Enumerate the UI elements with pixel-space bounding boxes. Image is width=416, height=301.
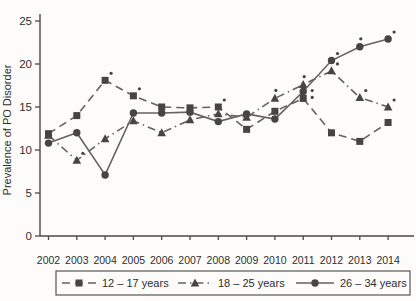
- x-tick-label: 2014: [376, 254, 400, 266]
- significance-asterisk: [223, 98, 226, 101]
- x-tick-label: 2003: [65, 254, 89, 266]
- significance-asterisk: [359, 37, 362, 40]
- data-point-marker: [243, 126, 250, 133]
- data-point-marker: [73, 129, 80, 136]
- data-point-marker: [356, 43, 363, 50]
- data-point-marker: [328, 57, 335, 64]
- y-tick-label: 15: [19, 101, 32, 113]
- data-point-marker: [328, 129, 335, 136]
- x-tick-label: 2012: [320, 254, 344, 266]
- figure-container: 0510152025200220032004200520062007200820…: [0, 0, 416, 301]
- data-point-marker: [271, 108, 278, 115]
- significance-asterisk: [364, 89, 367, 92]
- significance-asterisk: [110, 72, 113, 75]
- significance-asterisk: [81, 152, 84, 155]
- data-point-marker: [45, 139, 52, 146]
- x-tick-label: 2002: [37, 254, 61, 266]
- data-point-marker: [300, 95, 307, 102]
- legend-label: 18 – 25 years: [218, 277, 285, 289]
- line-chart: 0510152025200220032004200520062007200820…: [0, 0, 416, 301]
- data-point-marker: [130, 92, 137, 99]
- data-point-marker: [356, 138, 363, 145]
- y-axis-title: Prevalence of PO Disorder: [1, 64, 13, 195]
- data-point-marker: [130, 109, 137, 116]
- data-point-marker: [385, 119, 392, 126]
- data-point-marker: [186, 108, 193, 115]
- significance-asterisk: [393, 98, 396, 101]
- significance-asterisk: [311, 89, 314, 92]
- data-point-marker: [158, 109, 165, 116]
- data-point-marker: [271, 115, 278, 122]
- x-tick-label: 2005: [122, 254, 146, 266]
- x-tick-label: 2006: [150, 254, 174, 266]
- legend-marker: [311, 279, 318, 286]
- y-tick-label: 10: [19, 144, 32, 156]
- y-tick-label: 20: [19, 58, 32, 70]
- significance-asterisk: [311, 96, 314, 99]
- legend-label: 12 – 17 years: [102, 277, 169, 289]
- significance-asterisk: [393, 30, 396, 33]
- x-tick-label: 2013: [348, 254, 372, 266]
- significance-asterisk: [274, 89, 277, 92]
- x-tick-label: 2004: [93, 254, 117, 266]
- x-tick-label: 2008: [207, 254, 231, 266]
- significance-asterisk: [303, 75, 306, 78]
- y-tick-label: 0: [26, 230, 32, 242]
- y-tick-label: 5: [26, 187, 32, 199]
- data-point-marker: [102, 77, 109, 84]
- significance-asterisk: [336, 62, 339, 65]
- data-point-marker: [300, 88, 307, 95]
- data-point-marker: [243, 110, 250, 117]
- data-point-marker: [384, 35, 391, 42]
- x-tick-label: 2010: [263, 254, 287, 266]
- x-tick-label: 2011: [292, 254, 315, 266]
- data-point-marker: [73, 112, 80, 119]
- significance-asterisk: [138, 87, 141, 90]
- data-point-marker: [215, 118, 222, 125]
- x-tick-label: 2009: [235, 254, 259, 266]
- legend-label: 26 – 34 years: [340, 277, 407, 289]
- y-tick-label: 25: [19, 15, 32, 27]
- data-point-marker: [101, 171, 108, 178]
- x-tick-label: 2007: [178, 254, 202, 266]
- legend-marker: [76, 280, 83, 287]
- significance-asterisk: [336, 52, 339, 55]
